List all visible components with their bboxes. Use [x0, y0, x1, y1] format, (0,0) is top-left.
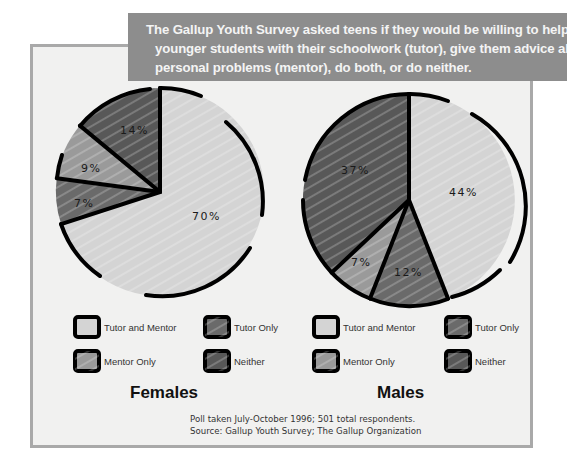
- females-label: Females: [130, 383, 198, 403]
- legend-swatch-icon: [202, 314, 232, 340]
- males-legend-neither: Neither: [443, 348, 506, 374]
- chart-title: The Gallup Youth Survey asked teens if t…: [128, 13, 567, 81]
- females-legend-tutor-and-mentor: Tutor and Mentor: [72, 314, 177, 340]
- females-pct-mentor-only: 7%: [74, 197, 94, 210]
- females-pct-neither: 14%: [120, 124, 149, 137]
- males-legend-tutor-and-mentor: Tutor and Mentor: [311, 314, 416, 340]
- males-pie-chart: 37% 44% 7% 12%: [300, 80, 540, 320]
- males-label: Males: [377, 383, 424, 403]
- title-line-1: The Gallup Youth Survey asked teens if t…: [146, 20, 557, 39]
- footnote: Poll taken July-October 1996; 501 total …: [190, 413, 421, 437]
- females-pct-tutor-only: 9%: [81, 162, 101, 175]
- males-legend-mentor-only: Mentor Only: [311, 348, 395, 374]
- legend-label: Tutor and Mentor: [343, 322, 416, 333]
- males-pct-neither: 37%: [341, 164, 370, 177]
- legend-swatch-icon: [72, 348, 102, 374]
- legend-label: Mentor Only: [343, 356, 395, 367]
- legend-label: Tutor Only: [234, 322, 278, 333]
- legend-label: Neither: [475, 356, 506, 367]
- legend-swatch-icon: [311, 314, 341, 340]
- females-legend-mentor-only: Mentor Only: [72, 348, 156, 374]
- females-pct-tutor-and-mentor: 70%: [192, 210, 221, 223]
- footnote-poll: Poll taken July-October 1996; 501 total …: [190, 413, 421, 425]
- title-line-3: personal problems (mentor), do both, or …: [146, 58, 557, 77]
- females-pie-chart: 14% 9% 7% 70%: [50, 80, 280, 310]
- legend-label: Tutor Only: [475, 322, 519, 333]
- legend-label: Tutor and Mentor: [104, 322, 177, 333]
- legend-label: Mentor Only: [104, 356, 156, 367]
- legend-swatch-icon: [443, 314, 473, 340]
- males-pct-mentor-only: 7%: [351, 256, 371, 269]
- legend-swatch-icon: [72, 314, 102, 340]
- legend-swatch-icon: [443, 348, 473, 374]
- males-pct-tutor-only: 12%: [394, 266, 423, 279]
- females-legend-neither: Neither: [202, 348, 265, 374]
- females-legend-tutor-only: Tutor Only: [202, 314, 278, 340]
- males-pct-tutor-and-mentor: 44%: [449, 186, 478, 199]
- males-legend-tutor-only: Tutor Only: [443, 314, 519, 340]
- title-line-2: younger students with their schoolwork (…: [146, 39, 557, 58]
- legend-swatch-icon: [311, 348, 341, 374]
- legend-label: Neither: [234, 356, 265, 367]
- legend-swatch-icon: [202, 348, 232, 374]
- footnote-source: Source: Gallup Youth Survey; The Gallup …: [190, 425, 421, 437]
